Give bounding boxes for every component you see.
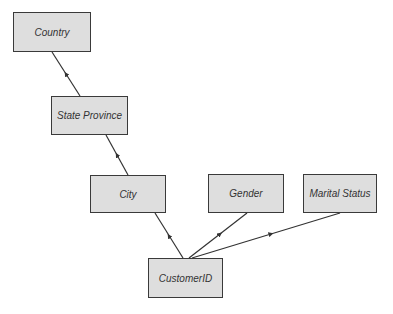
node-customer-id: CustomerID bbox=[148, 258, 223, 298]
node-state-province: State Province bbox=[51, 96, 128, 135]
edge-customer-to-gender bbox=[189, 213, 247, 258]
node-label: Country bbox=[34, 27, 69, 38]
node-label: Gender bbox=[229, 188, 262, 199]
node-label: Marital Status bbox=[309, 188, 370, 199]
edge-state-to-country bbox=[52, 52, 80, 96]
node-label: State Province bbox=[57, 110, 122, 121]
edge-customer-to-marital-status bbox=[192, 213, 340, 258]
diagram-canvas: Country State Province City Gender Marit… bbox=[0, 0, 393, 314]
edge-customer-to-city bbox=[155, 213, 183, 258]
edge-city-to-state bbox=[106, 135, 128, 175]
node-label: City bbox=[119, 189, 136, 200]
node-city: City bbox=[90, 175, 166, 213]
node-label: CustomerID bbox=[159, 273, 212, 284]
node-gender: Gender bbox=[208, 174, 284, 213]
node-country: Country bbox=[13, 12, 91, 52]
node-marital-status: Marital Status bbox=[303, 174, 377, 213]
